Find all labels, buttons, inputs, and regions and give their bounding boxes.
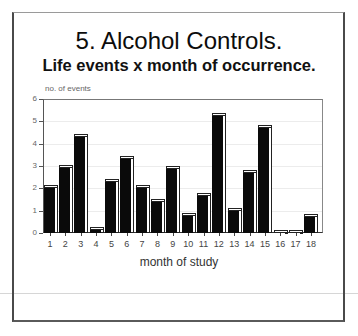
x-tick-label: 17 xyxy=(288,239,304,249)
bar-side-highlight xyxy=(162,201,165,233)
x-tick-label: 16 xyxy=(272,239,288,249)
x-tick-mark xyxy=(250,233,251,236)
x-tick-mark xyxy=(280,233,281,236)
bar-month-18 xyxy=(304,217,315,233)
x-tick-label: 5 xyxy=(103,239,119,249)
x-tick-mark xyxy=(219,233,220,236)
bar-month-11 xyxy=(197,196,208,233)
y-tick-label: 0 xyxy=(27,228,37,237)
chart-title: 5. Alcohol Controls. xyxy=(0,27,358,55)
x-tick-label: 1 xyxy=(42,239,58,249)
x-tick-mark xyxy=(204,233,205,236)
x-tick-mark xyxy=(265,233,266,236)
x-tick-label: 10 xyxy=(180,239,196,249)
bar-month-8 xyxy=(151,202,162,233)
bar-side-highlight xyxy=(177,168,180,233)
bar-month-6 xyxy=(120,159,131,233)
y-tick-mark xyxy=(39,144,43,145)
bar-month-13 xyxy=(228,211,239,233)
x-tick-label: 15 xyxy=(257,239,273,249)
x-tick-label: 14 xyxy=(242,239,258,249)
bar-side-highlight xyxy=(85,136,88,233)
x-tick-label: 2 xyxy=(57,239,73,249)
bar-side-highlight xyxy=(131,158,134,233)
x-tick-label: 4 xyxy=(88,239,104,249)
bar-side-highlight xyxy=(285,232,288,234)
bar-side-highlight xyxy=(193,215,196,233)
bar-month-4 xyxy=(90,230,101,233)
x-tick-mark xyxy=(311,233,312,236)
y-tick-label: 5 xyxy=(27,116,37,125)
bar-month-12 xyxy=(212,116,223,233)
x-tick-mark xyxy=(296,233,297,236)
x-tick-label: 18 xyxy=(303,239,319,249)
bar-month-15 xyxy=(258,128,269,233)
x-tick-label: 9 xyxy=(165,239,181,249)
bar-side-highlight xyxy=(208,195,211,233)
bar-side-highlight xyxy=(101,229,104,233)
y-tick-label: 6 xyxy=(27,94,37,103)
bar-side-highlight xyxy=(70,167,73,233)
bar-month-2 xyxy=(59,168,70,233)
x-tick-mark xyxy=(234,233,235,236)
chart-subtitle: Life events x month of occurrence. xyxy=(0,56,358,75)
y-tick-mark xyxy=(39,233,43,234)
bar-side-highlight xyxy=(269,127,272,233)
bar-side-highlight xyxy=(55,187,58,233)
x-tick-mark xyxy=(157,233,158,236)
x-tick-label: 13 xyxy=(226,239,242,249)
y-axis-label: no. of events xyxy=(45,84,91,93)
y-tick-mark xyxy=(39,166,43,167)
y-tick-mark xyxy=(39,211,43,212)
y-tick-mark xyxy=(39,99,43,100)
bar-side-highlight xyxy=(116,181,119,233)
bar-month-14 xyxy=(243,173,254,233)
x-tick-mark xyxy=(96,233,97,236)
bar-side-highlight xyxy=(300,232,303,234)
x-tick-mark xyxy=(142,233,143,236)
bar-month-9 xyxy=(166,169,177,233)
y-tick-label: 3 xyxy=(27,161,37,170)
x-tick-label: 6 xyxy=(119,239,135,249)
x-tick-mark xyxy=(188,233,189,236)
y-tick-mark xyxy=(39,188,43,189)
x-tick-mark xyxy=(65,233,66,236)
y-tick-label: 1 xyxy=(27,206,37,215)
bar-side-highlight xyxy=(254,172,257,233)
x-tick-mark xyxy=(111,233,112,236)
bar-month-3 xyxy=(74,137,85,233)
x-tick-label: 7 xyxy=(134,239,150,249)
x-tick-label: 3 xyxy=(73,239,89,249)
x-tick-label: 12 xyxy=(211,239,227,249)
x-tick-label: 8 xyxy=(149,239,165,249)
bar-side-highlight xyxy=(239,210,242,233)
bar-side-highlight xyxy=(315,216,318,233)
bar-month-10 xyxy=(182,216,193,233)
x-tick-mark xyxy=(127,233,128,236)
y-tick-mark xyxy=(39,121,43,122)
y-tick-label: 2 xyxy=(27,183,37,192)
x-tick-mark xyxy=(81,233,82,236)
bar-side-highlight xyxy=(147,187,150,233)
bar-side-highlight xyxy=(223,115,226,233)
bar-month-5 xyxy=(105,182,116,233)
x-tick-mark xyxy=(173,233,174,236)
x-tick-mark xyxy=(50,233,51,236)
bar-month-1 xyxy=(44,188,55,233)
x-axis-label: month of study xyxy=(0,255,358,269)
y-tick-label: 4 xyxy=(27,139,37,148)
x-tick-label: 11 xyxy=(196,239,212,249)
bar-month-7 xyxy=(136,188,147,233)
